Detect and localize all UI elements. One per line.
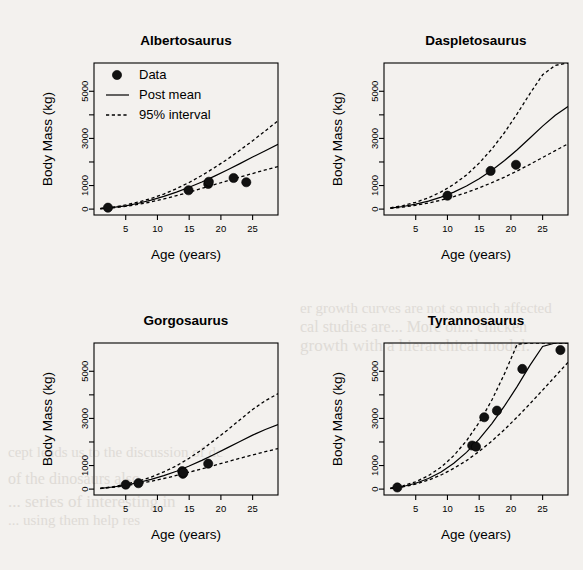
- x-tick-label: 10: [442, 503, 453, 514]
- y-tick-label: 5000: [369, 81, 380, 102]
- series-95-interval-upper: [390, 63, 568, 208]
- x-tick-label: 5: [413, 503, 418, 514]
- y-axis-title: Body Mass (kg): [330, 92, 345, 186]
- plot-area: [390, 343, 568, 492]
- x-tick-label: 5: [123, 223, 128, 234]
- legend-label: Data: [139, 67, 167, 82]
- legend: DataPost mean95% interval: [106, 67, 211, 122]
- x-tick-label: 20: [506, 223, 517, 234]
- x-tick-label: 25: [537, 503, 548, 514]
- y-tick-label: 5000: [369, 361, 380, 382]
- y-tick-label: 1000: [79, 175, 90, 196]
- data-point: [179, 468, 188, 477]
- y-tick-label: 3000: [79, 408, 90, 429]
- data-point: [486, 166, 495, 175]
- y-tick-label: 3000: [79, 128, 90, 149]
- x-tick-label: 25: [247, 223, 258, 234]
- data-point: [471, 442, 480, 451]
- x-tick-label: 15: [474, 503, 485, 514]
- series-95-interval-upper: [100, 394, 278, 489]
- y-axis-title: Body Mass (kg): [40, 92, 55, 186]
- plot-frame: [384, 343, 568, 495]
- y-tick-label: 1000: [369, 455, 380, 476]
- panel-title: Tyrannosaurus: [428, 313, 525, 328]
- data-point: [134, 479, 143, 488]
- x-tick-label: 25: [537, 223, 548, 234]
- plot-frame: [384, 63, 568, 215]
- y-tick-label: 5000: [79, 361, 90, 382]
- series-post-mean: [100, 144, 278, 208]
- y-tick-label: 1000: [369, 175, 380, 196]
- x-tick-label: 15: [184, 503, 195, 514]
- x-tick-label: 15: [474, 223, 485, 234]
- x-tick-label: 20: [506, 503, 517, 514]
- data-point: [229, 173, 238, 182]
- legend-marker-data: [112, 70, 121, 79]
- series-post-mean: [100, 425, 278, 489]
- panel-title: Gorgosaurus: [144, 313, 229, 328]
- y-tick-label: 1000: [79, 455, 90, 476]
- x-tick-label: 10: [152, 223, 163, 234]
- data-point: [184, 186, 193, 195]
- legend-label: Post mean: [139, 87, 201, 102]
- x-axis-title: Age (years): [151, 527, 221, 542]
- data-point: [480, 413, 489, 422]
- dinosaur-growth-curve-figure: Albertosaurus0100030005000510152025Age (…: [0, 0, 583, 570]
- plot-area: [100, 121, 278, 213]
- x-axis-title: Age (years): [441, 527, 511, 542]
- series-95-interval-lower: [390, 362, 568, 488]
- data-point: [511, 160, 520, 169]
- x-tick-label: 25: [247, 503, 258, 514]
- series-95-interval-upper: [390, 343, 568, 488]
- series-post-mean: [390, 107, 568, 209]
- x-tick-label: 15: [184, 223, 195, 234]
- data-point: [103, 203, 112, 212]
- panel-title: Albertosaurus: [140, 33, 232, 48]
- data-point: [204, 459, 213, 468]
- x-axis-title: Age (years): [441, 247, 511, 262]
- panel-title: Daspletosaurus: [425, 33, 526, 48]
- data-point: [204, 177, 213, 186]
- x-tick-label: 20: [216, 223, 227, 234]
- y-tick-label: 5000: [79, 81, 90, 102]
- data-point: [492, 406, 501, 415]
- legend-label: 95% interval: [139, 107, 211, 122]
- data-point: [242, 178, 251, 187]
- panel-gorgosaurus: Gorgosaurus0100030005000510152025Age (ye…: [40, 313, 278, 542]
- y-tick-label: 0: [369, 206, 380, 211]
- data-point: [393, 483, 402, 492]
- panel-tyrannosaurus: Tyrannosaurus0100030005000510152025Age (…: [330, 313, 568, 542]
- y-tick-label: 0: [79, 486, 90, 491]
- panel-albertosaurus: Albertosaurus0100030005000510152025Age (…: [40, 33, 278, 262]
- data-point: [121, 480, 130, 489]
- y-tick-label: 3000: [369, 408, 380, 429]
- x-tick-label: 10: [442, 223, 453, 234]
- x-tick-label: 10: [152, 503, 163, 514]
- series-95-interval-upper: [100, 121, 278, 209]
- y-tick-label: 0: [79, 206, 90, 211]
- y-axis-title: Body Mass (kg): [40, 372, 55, 466]
- x-axis-title: Age (years): [151, 247, 221, 262]
- data-point: [443, 191, 452, 200]
- series-post-mean: [390, 343, 568, 488]
- x-tick-label: 20: [216, 503, 227, 514]
- plot-area: [390, 63, 568, 208]
- panel-daspletosaurus: Daspletosaurus0100030005000510152025Age …: [330, 33, 568, 262]
- x-tick-label: 5: [413, 223, 418, 234]
- y-tick-label: 0: [369, 486, 380, 491]
- y-tick-label: 3000: [369, 128, 380, 149]
- plot-area: [100, 394, 278, 490]
- data-point: [556, 345, 565, 354]
- series-95-interval-lower: [390, 144, 568, 209]
- data-point: [518, 364, 527, 373]
- y-axis-title: Body Mass (kg): [330, 372, 345, 466]
- x-tick-label: 5: [123, 503, 128, 514]
